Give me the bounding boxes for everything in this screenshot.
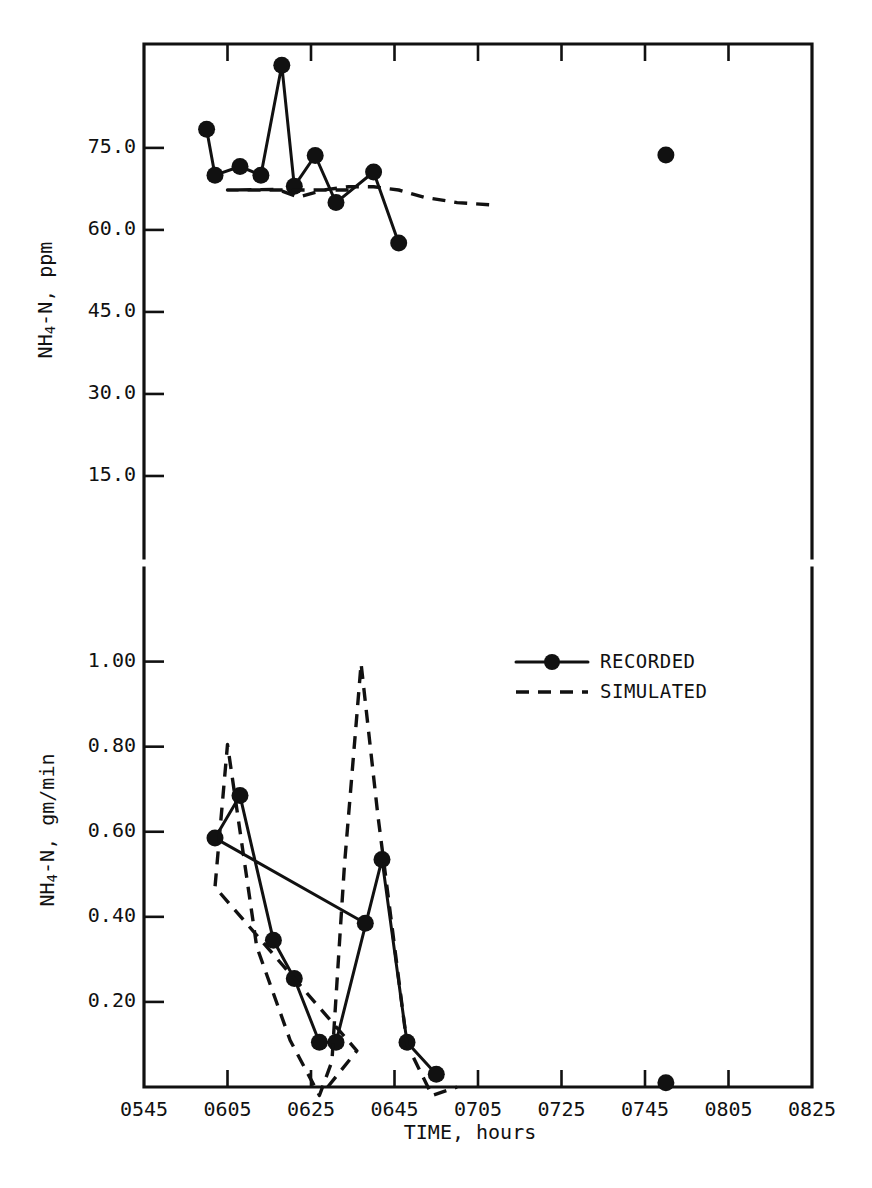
y-tick-label-0.40: 0.40 [88, 903, 136, 927]
top-panel-series [198, 57, 674, 252]
x-tick-label-0805: 0805 [704, 1097, 752, 1121]
top-panel-y-ticks [144, 148, 164, 476]
data-point-recorded-9 [390, 235, 407, 252]
x-tick-label-0605: 0605 [203, 1097, 251, 1121]
x-tick-label-0705: 0705 [454, 1097, 502, 1121]
legend-label-recorded: RECORDED [600, 650, 696, 672]
bottom-panel-y-axis-title: NH4-N, gm/min [35, 754, 61, 907]
top-panel-y-tick-labels: 75.060.045.030.015.0 [88, 134, 136, 486]
bottom-panel-frame [144, 568, 812, 1087]
bottom-ylabel-post: -N, gm/min [35, 754, 59, 874]
y-tick-label-60.0: 60.0 [88, 216, 136, 240]
x-tick-label-0545: 0545 [120, 1097, 168, 1121]
y-tick-label-45.0: 45.0 [88, 298, 136, 322]
bottom-panel-x-tick-labels: 054506050625064507050725074508050825 [120, 1097, 836, 1121]
x-tick-label-0725: 0725 [537, 1097, 585, 1121]
data-point-recorded-9 [428, 1066, 445, 1083]
data-point-recorded-3 [252, 167, 269, 184]
series-path-recorded [215, 796, 436, 1075]
bottom-panel-y-ticks [144, 662, 164, 1002]
data-point-recorded-0 [198, 121, 215, 138]
bottom-panel-series [207, 664, 675, 1096]
data-point-recorded-0 [357, 915, 374, 932]
figure-root: 75.060.045.030.015.0 NH4-N, ppm 1.000.80… [0, 0, 872, 1188]
data-point-recorded-4 [273, 57, 290, 74]
data-point-recorded-6 [307, 147, 324, 164]
data-point-recorded-7 [328, 194, 345, 211]
legend-label-simulated: SIMULATED [600, 680, 707, 702]
top-panel-frame [144, 44, 812, 558]
series-path-simulated [215, 664, 457, 1096]
top-panel: 75.060.045.030.015.0 NH4-N, ppm [33, 44, 813, 558]
y-tick-label-1.00: 1.00 [88, 648, 136, 672]
data-point-recorded-6 [328, 1034, 345, 1051]
bottom-ylabel-pre: NH [35, 882, 59, 906]
data-point-recorded-5 [311, 1034, 328, 1051]
x-tick-label-0645: 0645 [370, 1097, 418, 1121]
data-point-recorded-2 [232, 158, 249, 175]
bottom-ylabel-sub: 4 [44, 874, 60, 882]
top-panel-y-axis-title: NH4-N, ppm [33, 242, 59, 359]
legend-marker-recorded [544, 654, 560, 670]
svg-text:NH4-N, ppm: NH4-N, ppm [33, 242, 59, 359]
top-ylabel-pre: NH [33, 334, 57, 358]
y-tick-label-75.0: 75.0 [88, 134, 136, 158]
x-tick-label-0825: 0825 [788, 1097, 836, 1121]
series-path-recorded [207, 65, 399, 243]
x-tick-label-0745: 0745 [621, 1097, 669, 1121]
series-path-simulated [228, 187, 491, 205]
bottom-panel-y-tick-labels: 1.000.800.600.400.20 [88, 648, 136, 1012]
legend: RECORDED SIMULATED [516, 650, 707, 702]
x-tick-label-0625: 0625 [287, 1097, 335, 1121]
top-panel-x-ticks [228, 44, 729, 61]
y-tick-label-30.0: 30.0 [88, 380, 136, 404]
bottom-panel: 1.000.800.600.400.20 0545060506250645070… [35, 568, 837, 1144]
svg-text:NH4-N, gm/min: NH4-N, gm/min [35, 754, 61, 907]
x-axis-title: TIME, hours [404, 1120, 536, 1144]
y-tick-label-0.80: 0.80 [88, 733, 136, 757]
chart-canvas: 75.060.045.030.015.0 NH4-N, ppm 1.000.80… [0, 0, 872, 1188]
y-tick-label-0.60: 0.60 [88, 818, 136, 842]
data-point-recorded-isolated-0 [657, 1074, 674, 1091]
y-tick-label-15.0: 15.0 [88, 462, 136, 486]
data-point-recorded-8 [365, 164, 382, 181]
top-ylabel-post: -N, ppm [33, 242, 57, 326]
data-point-recorded-1 [207, 167, 224, 184]
data-point-recorded-isolated-0 [657, 147, 674, 164]
bottom-panel-x-ticks [228, 1070, 729, 1087]
y-tick-label-0.20: 0.20 [88, 988, 136, 1012]
top-ylabel-sub: 4 [42, 326, 58, 334]
